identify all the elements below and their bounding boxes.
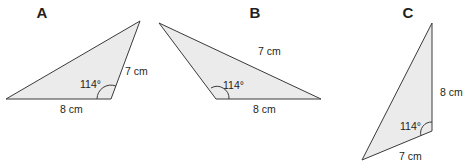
triangle-b-side-label: 7 cm [258,45,281,57]
triangle-c: C 114° 8 cm 7 cm [362,4,463,162]
triangle-b: B 114° 7 cm 8 cm [159,4,321,115]
triangle-c-angle-label: 114° [400,120,421,132]
triangle-a-base-label: 8 cm [60,103,83,115]
triangle-b-title: B [250,4,261,21]
diagram-svg: A 114° 7 cm 8 cm B 114° 7 cm 8 cm C 114°… [0,0,463,162]
triangle-a-angle-label: 114° [80,78,101,90]
triangles-diagram: A 114° 7 cm 8 cm B 114° 7 cm 8 cm C 114°… [0,0,463,162]
triangle-c-bottom-label: 7 cm [399,150,422,162]
triangle-b-base-label: 8 cm [253,103,276,115]
triangle-b-angle-label: 114° [223,79,244,91]
triangle-c-vertical-label: 8 cm [440,86,463,98]
triangle-a-shape [6,21,140,99]
triangle-c-shape [362,23,432,160]
triangle-a-side-label: 7 cm [125,65,148,77]
triangle-a: A 114° 7 cm 8 cm [6,4,148,115]
triangle-a-title: A [37,4,48,21]
triangle-c-title: C [403,4,414,21]
